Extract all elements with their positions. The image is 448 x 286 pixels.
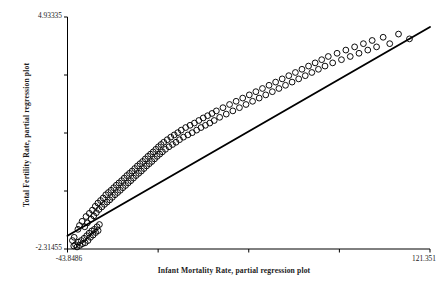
- scatter-point: [369, 38, 375, 44]
- scatter-point: [263, 92, 269, 98]
- scatter-point: [302, 73, 308, 79]
- scatter-point: [211, 118, 217, 124]
- scatter-point: [292, 70, 298, 76]
- scatter-point: [237, 105, 243, 111]
- scatter-point: [325, 54, 331, 60]
- scatter-point: [250, 98, 256, 104]
- scatter-point: [266, 82, 272, 88]
- partial-regression-chart: Total Fertility Rate, partial regression…: [0, 0, 448, 286]
- scatter-point: [343, 47, 349, 53]
- scatter-point: [196, 118, 202, 124]
- scatter-point: [312, 60, 318, 66]
- scatter-point: [256, 95, 262, 101]
- regression-fit-line: [68, 27, 431, 236]
- scatter-point: [253, 89, 259, 95]
- scatter-point: [374, 44, 380, 50]
- scatter-point: [334, 50, 340, 56]
- x-axis-ticks: [68, 249, 431, 253]
- scatter-point: [276, 86, 282, 92]
- scatter-point: [356, 50, 362, 56]
- scatter-point: [322, 63, 328, 69]
- scatter-point: [380, 34, 386, 40]
- scatter-point: [233, 98, 239, 104]
- scatter-point: [347, 54, 353, 60]
- scatter-point: [309, 70, 315, 76]
- scatter-point: [243, 102, 249, 108]
- axis-spines: [68, 17, 431, 249]
- scatter-point: [299, 66, 305, 72]
- scatter-point: [316, 66, 322, 72]
- scatter-points: [70, 31, 413, 250]
- scatter-point: [246, 92, 252, 98]
- scatter-point: [279, 76, 285, 82]
- scatter-point: [230, 108, 236, 114]
- scatter-point: [269, 89, 275, 95]
- scatter-point: [223, 111, 229, 117]
- scatter-point: [273, 79, 279, 85]
- scatter-point: [283, 82, 289, 88]
- scatter-point: [260, 86, 266, 92]
- scatter-point: [217, 114, 223, 120]
- scatter-point: [352, 44, 358, 50]
- scatter-point: [289, 79, 295, 85]
- scatter-point: [194, 127, 200, 133]
- scatter-point: [220, 105, 226, 111]
- scatter-point: [330, 60, 336, 66]
- scatter-point: [387, 41, 393, 47]
- scatter-point: [213, 108, 219, 114]
- scatter-point: [361, 41, 367, 47]
- scatter-point: [296, 76, 302, 82]
- scatter-point: [306, 63, 312, 69]
- scatter-point: [339, 57, 345, 63]
- scatter-point: [240, 95, 246, 101]
- scatter-point: [396, 31, 402, 37]
- scatter-point: [319, 57, 325, 63]
- y-axis-ticks: [64, 17, 68, 249]
- scatter-point: [227, 102, 233, 108]
- scatter-point: [365, 47, 371, 53]
- plot-area: [0, 0, 448, 286]
- scatter-point: [286, 73, 292, 79]
